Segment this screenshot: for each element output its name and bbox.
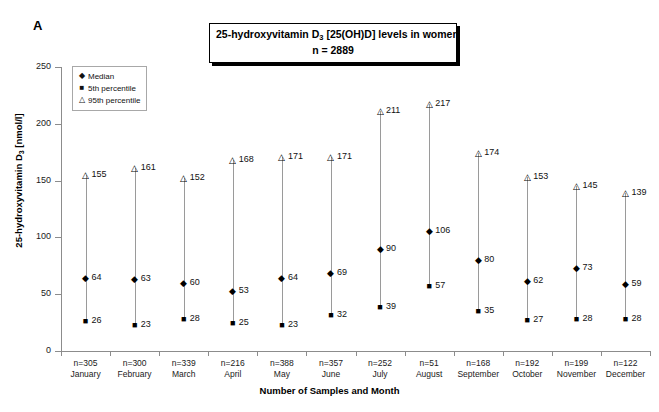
data-point-value: 60	[190, 277, 200, 288]
y-tick-label: 50	[5, 288, 51, 298]
data-point-value: 168	[239, 154, 254, 165]
data-point-value: 171	[288, 151, 303, 162]
triangle-marker-icon: △	[425, 100, 433, 108]
diamond-marker-icon: ◆	[621, 280, 629, 288]
x-tick-mark	[159, 351, 160, 356]
data-point-value: 69	[337, 267, 347, 278]
data-point-value: 32	[337, 309, 347, 320]
square-marker-icon: ■	[82, 317, 90, 325]
data-point-value: 153	[533, 171, 548, 182]
range-stem	[478, 153, 479, 311]
x-tick-mark	[208, 351, 209, 356]
y-tick-label: 200	[5, 118, 51, 128]
data-point-value: 64	[288, 272, 298, 283]
title-suffix: [25(OH)D] levels in women	[323, 28, 458, 40]
x-tick-mark	[257, 351, 258, 356]
y-tick-label: 250	[5, 61, 51, 71]
square-marker-icon: ■	[229, 319, 237, 327]
x-tick-mark	[61, 351, 62, 356]
square-marker-icon: ■	[278, 321, 286, 329]
data-point-value: 28	[190, 313, 200, 324]
data-point-value: 23	[288, 319, 298, 330]
data-point-value: 161	[141, 162, 156, 173]
triangle-marker-icon: △	[376, 107, 384, 115]
data-point-value: 217	[435, 98, 450, 109]
data-point-value: 174	[484, 147, 499, 158]
x-tick-mark	[503, 351, 504, 356]
chart-title-line2: n = 2889	[216, 43, 450, 57]
panel-letter: A	[33, 18, 43, 33]
diamond-marker-icon: ◆	[327, 269, 335, 277]
data-point-value: 35	[484, 305, 494, 316]
data-point-value: 64	[92, 272, 102, 283]
data-point-value: 211	[386, 105, 400, 116]
diamond-marker-icon: ◆	[82, 274, 90, 282]
range-stem	[576, 186, 577, 319]
data-point-value: 155	[92, 169, 107, 180]
square-marker-icon: ■	[180, 315, 188, 323]
diamond-marker-icon: ◆	[229, 287, 237, 295]
title-subscript: 3	[319, 33, 323, 42]
data-point-value: 90	[386, 243, 396, 254]
y-tick-label: 0	[5, 345, 51, 355]
data-point-value: 152	[190, 172, 205, 183]
diamond-marker-icon: ◆	[474, 256, 482, 264]
figure-panel-a: A 25-hydroxyvitamin D3 [25(OH)D] levels …	[0, 0, 659, 412]
range-stem	[86, 175, 87, 322]
square-marker-icon: ■	[572, 315, 580, 323]
data-point-value: 139	[631, 187, 646, 198]
triangle-marker-icon: △	[572, 182, 580, 190]
data-point-value: 73	[582, 262, 592, 273]
data-point-value: 23	[141, 319, 151, 330]
x-tick-mark	[601, 351, 602, 356]
data-point-value: 171	[337, 151, 352, 162]
data-point-value: 28	[582, 313, 592, 324]
data-point-value: 59	[631, 278, 641, 289]
square-marker-icon: ■	[425, 282, 433, 290]
data-point-value: 80	[484, 254, 494, 265]
square-marker-icon: ■	[523, 316, 531, 324]
diamond-marker-icon: ◆	[376, 245, 384, 253]
triangle-marker-icon: △	[278, 153, 286, 161]
x-tick-mark	[356, 351, 357, 356]
square-marker-icon: ■	[327, 311, 335, 319]
range-stem	[135, 168, 136, 325]
range-stem	[625, 193, 626, 319]
y-tick-label: 150	[5, 175, 51, 185]
data-point-value: 27	[533, 314, 543, 325]
square-marker-icon: ■	[376, 303, 384, 311]
x-tick-mark	[552, 351, 553, 356]
data-point-value: 145	[582, 180, 597, 191]
range-stem	[282, 157, 283, 325]
data-point-value: 39	[386, 301, 396, 312]
data-point-value: 53	[239, 285, 249, 296]
square-marker-icon: ■	[131, 321, 139, 329]
data-point-value: 57	[435, 280, 445, 291]
data-point-value: 62	[533, 275, 543, 286]
data-point-value: 26	[92, 315, 102, 326]
data-point-value: 28	[631, 313, 641, 324]
diamond-marker-icon: ◆	[572, 264, 580, 272]
x-tick-mark	[306, 351, 307, 356]
triangle-marker-icon: △	[474, 149, 482, 157]
range-stem	[184, 178, 185, 319]
range-stem	[380, 111, 381, 306]
x-category-label: n=122December	[590, 358, 659, 380]
triangle-marker-icon: △	[327, 153, 335, 161]
triangle-marker-icon: △	[621, 189, 629, 197]
triangle-marker-icon: △	[229, 156, 237, 164]
diamond-marker-icon: ◆	[180, 279, 188, 287]
x-tick-mark	[110, 351, 111, 356]
diamond-marker-icon: ◆	[278, 274, 286, 282]
range-stem	[233, 160, 234, 322]
diamond-marker-icon: ◆	[425, 227, 433, 235]
data-point-value: 63	[141, 273, 151, 284]
title-prefix: 25-hydroxyvitamin D	[216, 28, 319, 40]
triangle-marker-icon: △	[523, 173, 531, 181]
y-title-subscript: 3	[18, 150, 25, 154]
chart-title-box: 25-hydroxyvitamin D3 [25(OH)D] levels in…	[209, 23, 457, 63]
diamond-marker-icon: ◆	[523, 277, 531, 285]
diamond-marker-icon: ◆	[131, 275, 139, 283]
square-marker-icon: ■	[474, 307, 482, 315]
square-marker-icon: ■	[621, 315, 629, 323]
